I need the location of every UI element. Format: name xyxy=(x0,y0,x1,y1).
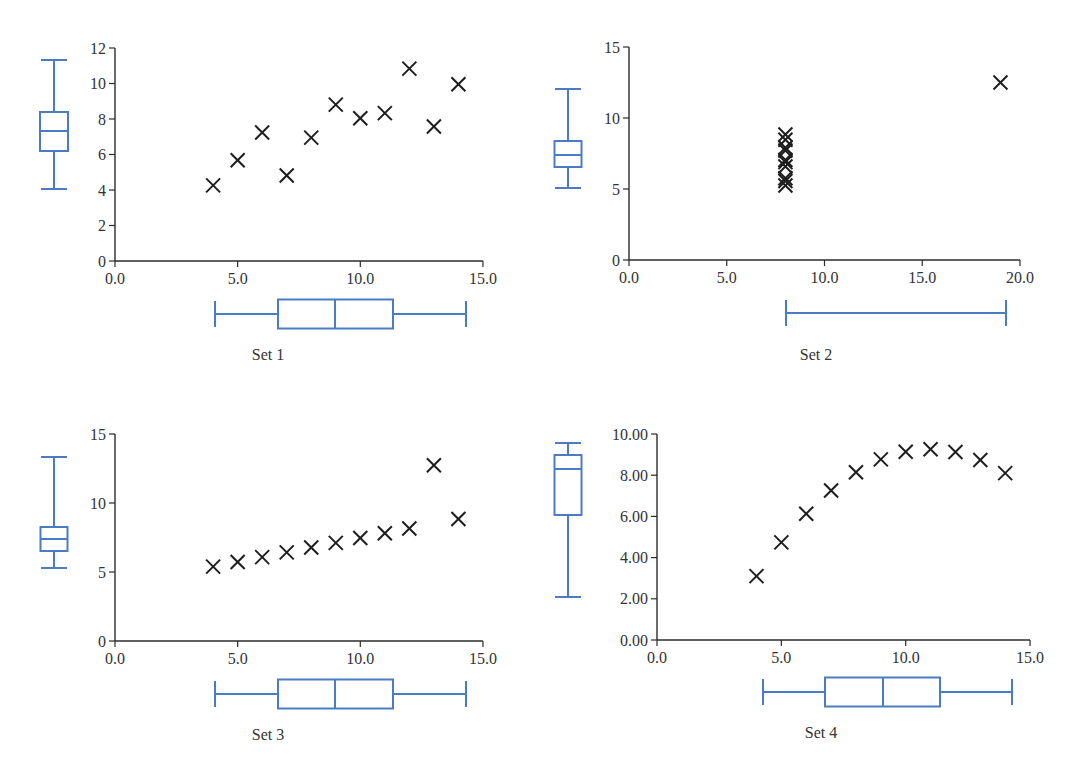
y-tick-label: 4 xyxy=(98,182,106,199)
y-tick-label: 6.00 xyxy=(620,508,648,525)
data-point-x-marker xyxy=(353,531,367,545)
x-tick-label: 10.0 xyxy=(346,650,374,667)
x-tick-label: 0.0 xyxy=(105,270,125,287)
data-point-x-marker xyxy=(774,535,788,549)
y-marginal-boxplot xyxy=(555,443,582,597)
panel-title: Set 2 xyxy=(800,346,832,363)
y-tick-label: 10 xyxy=(90,75,106,92)
y-marginal-boxplot xyxy=(41,457,68,568)
y-tick-label: 15 xyxy=(604,39,620,56)
x-tick-label: 15.0 xyxy=(908,269,936,286)
data-points xyxy=(206,62,465,193)
data-point-x-marker xyxy=(749,569,763,583)
y-tick-label: 8.00 xyxy=(620,467,648,484)
anscombe-figure: 0.05.010.015.0024681012Set 10.05.010.015… xyxy=(0,0,1083,771)
data-point-x-marker xyxy=(206,178,220,192)
data-point-x-marker xyxy=(206,560,220,574)
data-point-x-marker xyxy=(255,125,269,139)
x-marginal-boxplot xyxy=(215,680,466,709)
x-marginal-boxplot xyxy=(215,300,466,329)
panel-set-4: 0.05.010.015.00.002.004.006.008.0010.00S… xyxy=(555,426,1045,742)
y-tick-label: 5 xyxy=(98,564,106,581)
data-points xyxy=(778,76,1007,193)
data-point-x-marker xyxy=(799,507,813,521)
data-point-x-marker xyxy=(778,153,792,167)
data-point-x-marker xyxy=(304,131,318,145)
data-point-x-marker xyxy=(402,522,416,536)
data-point-x-marker xyxy=(874,452,888,466)
chart-canvas: 0.05.010.015.0024681012Set 10.05.010.015… xyxy=(0,0,1083,771)
data-point-x-marker xyxy=(948,445,962,459)
data-point-x-marker xyxy=(899,445,913,459)
x-tick-label: 10.0 xyxy=(346,270,374,287)
y-marginal-boxplot xyxy=(40,60,68,189)
x-tick-label: 10.0 xyxy=(892,649,920,666)
data-point-x-marker xyxy=(451,77,465,91)
data-point-x-marker xyxy=(778,141,792,155)
axes: 0.05.010.015.020.0051015 xyxy=(604,39,1034,287)
data-point-x-marker xyxy=(427,458,441,472)
data-point-x-marker xyxy=(451,512,465,526)
y-tick-label: 6 xyxy=(98,146,106,163)
x-tick-label: 15.0 xyxy=(469,650,497,667)
data-point-x-marker xyxy=(924,442,938,456)
y-tick-label: 15 xyxy=(90,426,106,443)
data-point-x-marker xyxy=(353,111,367,125)
y-tick-label: 5 xyxy=(612,181,620,198)
data-points xyxy=(206,458,465,573)
data-point-x-marker xyxy=(280,168,294,182)
x-tick-label: 20.0 xyxy=(1006,269,1034,286)
y-tick-label: 2.00 xyxy=(620,590,648,607)
data-point-x-marker xyxy=(998,466,1012,480)
data-point-x-marker xyxy=(255,550,269,564)
y-tick-label: 4.00 xyxy=(620,549,648,566)
x-tick-label: 5.0 xyxy=(228,270,248,287)
data-point-x-marker xyxy=(231,153,245,167)
y-tick-label: 10.00 xyxy=(612,426,648,443)
x-tick-label: 0.0 xyxy=(619,269,639,286)
x-tick-label: 0.0 xyxy=(647,649,667,666)
panel-title: Set 3 xyxy=(252,726,284,743)
y-tick-label: 8 xyxy=(98,111,106,128)
panel-title: Set 4 xyxy=(805,724,837,741)
data-point-x-marker xyxy=(849,465,863,479)
x-tick-label: 15.0 xyxy=(469,270,497,287)
data-point-x-marker xyxy=(973,453,987,467)
data-point-x-marker xyxy=(402,62,416,76)
data-point-x-marker xyxy=(329,536,343,550)
x-marginal-boxplot xyxy=(763,678,1012,707)
x-tick-label: 5.0 xyxy=(771,649,791,666)
data-point-x-marker xyxy=(824,483,838,497)
data-point-x-marker xyxy=(778,171,792,185)
y-tick-label: 0.00 xyxy=(620,632,648,649)
y-tick-label: 10 xyxy=(604,110,620,127)
y-marginal-boxplot xyxy=(555,89,582,188)
x-tick-label: 5.0 xyxy=(228,650,248,667)
data-point-x-marker xyxy=(231,555,245,569)
y-tick-label: 2 xyxy=(98,217,106,234)
y-tick-label: 0 xyxy=(612,252,620,269)
data-point-x-marker xyxy=(304,541,318,555)
panel-title: Set 1 xyxy=(252,346,284,363)
x-tick-label: 10.0 xyxy=(811,269,839,286)
data-point-x-marker xyxy=(280,545,294,559)
data-point-x-marker xyxy=(427,119,441,133)
data-point-x-marker xyxy=(378,526,392,540)
panel-set-1: 0.05.010.015.0024681012Set 1 xyxy=(40,40,497,364)
y-tick-label: 0 xyxy=(98,253,106,270)
y-tick-label: 12 xyxy=(90,40,106,57)
axes: 0.05.010.015.0024681012 xyxy=(90,40,497,288)
x-tick-label: 5.0 xyxy=(717,269,737,286)
data-point-x-marker xyxy=(378,106,392,120)
y-tick-label: 0 xyxy=(98,633,106,650)
data-point-x-marker xyxy=(329,98,343,112)
data-points xyxy=(749,442,1012,583)
x-marginal-boxplot xyxy=(786,300,1006,326)
panel-set-2: 0.05.010.015.020.0051015Set 2 xyxy=(555,39,1035,364)
y-tick-label: 10 xyxy=(90,495,106,512)
x-tick-label: 0.0 xyxy=(105,650,125,667)
data-point-x-marker xyxy=(993,76,1007,90)
x-tick-label: 15.0 xyxy=(1016,649,1044,666)
panel-set-3: 0.05.010.015.0051015Set 3 xyxy=(41,426,497,744)
